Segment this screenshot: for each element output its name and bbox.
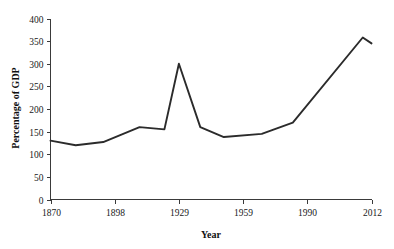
x-tick-label: 1959 xyxy=(234,208,253,218)
y-tick-label: 200 xyxy=(29,105,44,115)
x-axis-title: Year xyxy=(201,229,222,240)
x-tick-label: 1929 xyxy=(170,208,189,218)
y-tick-label: 0 xyxy=(39,196,44,206)
y-tick-label: 150 xyxy=(29,128,44,138)
chart-figure: 050100150200250300350400 187018981929195… xyxy=(0,0,394,249)
x-tick-label: 1870 xyxy=(42,208,61,218)
y-tick-label: 250 xyxy=(29,82,44,92)
x-tick-label: 2012 xyxy=(363,208,382,218)
y-tick-label: 400 xyxy=(29,15,44,25)
y-tick-label: 100 xyxy=(29,150,44,160)
y-tick-label: 350 xyxy=(29,37,44,47)
y-tick-label: 300 xyxy=(29,60,44,70)
y-axis-title: Percentage of GDP xyxy=(10,67,21,148)
x-tick-label: 1990 xyxy=(298,208,317,218)
line-chart: 050100150200250300350400 187018981929195… xyxy=(0,0,394,249)
x-tick-label: 1898 xyxy=(106,208,125,218)
y-tick-label: 50 xyxy=(34,173,44,183)
